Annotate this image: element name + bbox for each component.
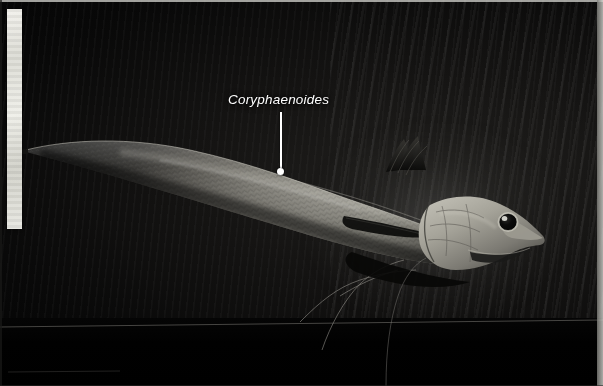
eye-highlight bbox=[502, 216, 508, 221]
film-border-left bbox=[0, 0, 2, 386]
fish-eye bbox=[498, 212, 519, 232]
species-label: Coryphaenoides bbox=[228, 92, 329, 107]
photograph-canvas: Coryphaenoides bbox=[0, 0, 603, 386]
leader-dot bbox=[277, 168, 284, 175]
fish-illustration bbox=[0, 0, 603, 386]
lower-frame-mark bbox=[8, 371, 120, 372]
scale-bar bbox=[7, 9, 22, 229]
film-border-right bbox=[597, 0, 603, 386]
fish-body bbox=[0, 120, 603, 290]
fish-head bbox=[419, 197, 545, 270]
leader-line bbox=[280, 112, 282, 168]
dorsal-fin bbox=[386, 136, 427, 175]
film-border-top bbox=[0, 0, 603, 2]
